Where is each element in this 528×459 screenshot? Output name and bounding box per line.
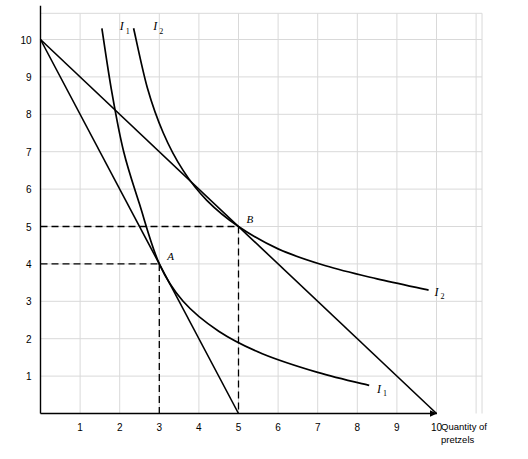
y-tick-label: 10 [20,35,32,46]
point-label: B [247,213,254,225]
y-tick-label: 8 [26,109,32,120]
svg-text:I: I [434,285,440,299]
point-label: A [166,250,174,262]
x-tick-label: 9 [394,422,400,433]
y-tick-label: 5 [26,222,32,233]
indifference-curve [102,28,369,385]
curve-label: I2 [434,285,445,302]
y-tick-label: 1 [26,371,32,382]
y-tick-label: 7 [26,147,32,158]
svg-text:1: 1 [383,389,387,398]
y-tick-label: 2 [26,334,32,345]
x-tick-label: 4 [196,422,202,433]
indifference-curve [134,28,429,290]
curve-label: I1 [119,19,130,36]
svg-text:1: 1 [126,27,130,36]
guide-dashes [41,227,239,414]
curve-label: I1 [376,382,387,399]
x-tick-label: 2 [117,422,123,433]
svg-text:2: 2 [441,292,445,301]
y-tick-label: 6 [26,184,32,195]
y-tick-label: 4 [26,259,32,270]
x-tick-label: 6 [275,422,281,433]
x-tick-label: 8 [355,422,361,433]
x-axis-label: Quantity of pretzels [441,419,521,445]
x-tick-label: 5 [236,422,242,433]
svg-text:I: I [119,19,125,33]
x-tick-label: 7 [315,422,321,433]
x-tick-label: 3 [157,422,163,433]
indifference-curve-chart: 1234567891012345678910ABI1I2I1I2 [0,0,528,459]
curve-label: I2 [152,19,163,36]
svg-text:I: I [376,382,382,396]
chart-container: 1234567891012345678910ABI1I2I1I2 Quantit… [0,0,528,459]
x-tick-label: 1 [77,422,83,433]
y-tick-label: 9 [26,72,32,83]
svg-text:I: I [152,19,158,33]
y-tick-label: 3 [26,296,32,307]
svg-text:2: 2 [159,27,163,36]
